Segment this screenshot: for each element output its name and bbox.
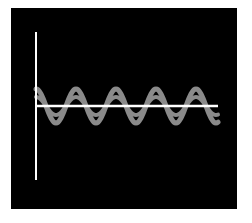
waveform-diagram bbox=[0, 0, 252, 223]
